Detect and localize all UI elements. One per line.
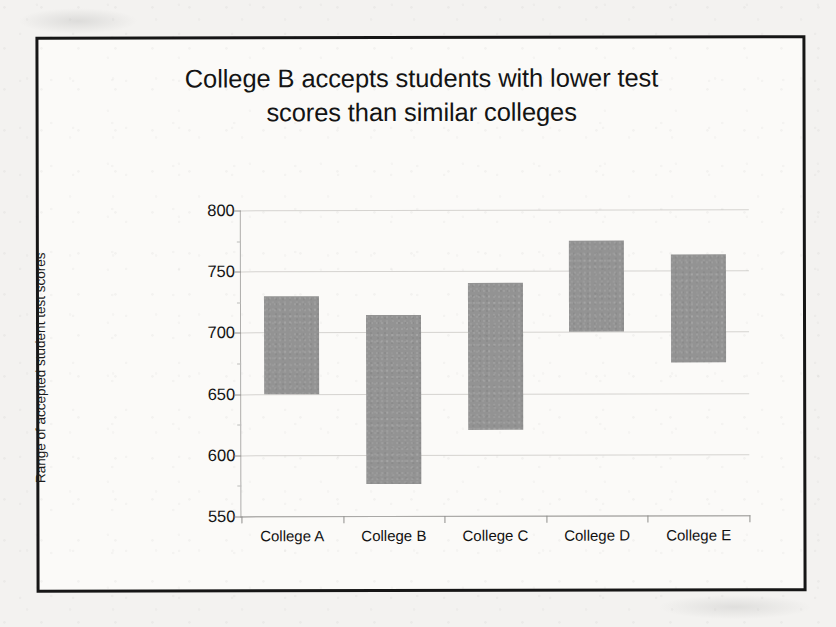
x-axis-tickmark [648,516,649,523]
y-axis-tickmark [234,455,241,456]
y-axis-tickmark [234,272,241,273]
y-axis-tick-label: 550 [189,507,235,526]
range-bar [467,283,522,430]
y-axis-tickmark [234,516,241,517]
gridline [241,209,749,211]
slide-frame: College B accepts students with lower te… [35,35,806,593]
y-axis-minor-tickmark [237,241,241,242]
range-bar [264,296,319,394]
x-axis-tick-label: College C [463,527,529,544]
range-bar [569,240,624,332]
range-bar [671,255,726,363]
x-axis-tick-label: College A [260,527,324,544]
y-axis-tick-label: 650 [189,384,235,403]
range-bar [366,315,421,484]
y-axis-tickmark [234,333,241,334]
y-axis-minor-tickmark [237,363,241,364]
y-axis-tickmark [234,210,241,211]
y-axis-tick-labels: 550600650700750800 [188,39,235,589]
x-axis-tickmark [749,515,750,522]
y-axis-minor-tickmark [237,425,241,426]
y-axis-tick-label: 700 [189,323,235,342]
y-axis-tick-label: 800 [189,201,235,220]
x-axis-tickmark [343,516,344,523]
chart-plot-area: Range of accepted student test scores 55… [38,38,803,590]
x-axis-tick-label: College B [361,527,426,544]
x-axis-tickmark [445,516,446,523]
y-axis-minor-tickmark [237,302,241,303]
x-axis-tickmark [546,516,547,523]
y-axis-tick-label: 600 [189,446,235,465]
gridlines-and-bars [241,209,750,516]
scan-smudge-top-left [18,8,138,34]
y-axis-minor-tickmark [237,486,241,487]
scan-smudge-bottom-right [660,595,810,619]
y-axis-tickmark [234,394,241,395]
x-axis-line [240,515,750,517]
x-axis-tickmark [241,516,242,523]
x-axis-tick-label: College D [564,527,630,544]
gridline [241,454,749,456]
y-axis-tick-label: 750 [189,262,235,281]
x-axis-tick-label: College E [666,526,731,543]
y-axis-title: Range of accepted student test scores [33,208,49,528]
